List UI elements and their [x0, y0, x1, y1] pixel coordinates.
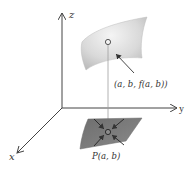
z-axis-label: z	[68, 9, 75, 20]
y-axis-label: y	[179, 103, 184, 114]
domain-point-marker	[105, 129, 110, 134]
x-axis-label: x	[9, 151, 15, 162]
surface-point-marker	[105, 39, 110, 44]
surface-point-label: (a, b, f(a, b))	[114, 79, 168, 89]
domain-point-label: P(a, b)	[91, 151, 120, 161]
limit-of-surface-diagram: z y x (a, b, f(a, b)) P(a, b)	[0, 0, 187, 180]
domain-patch	[80, 118, 142, 149]
x-axis	[17, 108, 62, 153]
surface-patch	[81, 17, 147, 70]
